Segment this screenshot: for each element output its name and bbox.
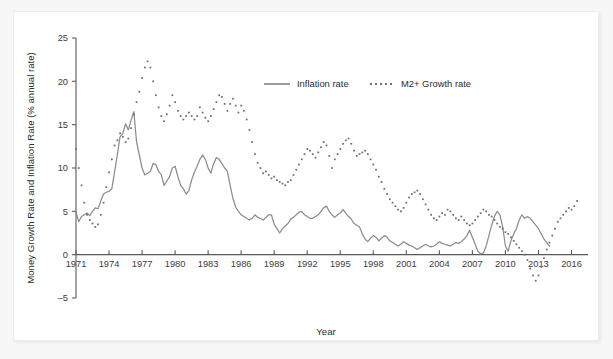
data-point: [122, 136, 124, 138]
data-point: [290, 179, 292, 181]
data-point: [518, 247, 520, 249]
data-point: [364, 150, 366, 152]
data-point: [210, 115, 212, 117]
data-point: [265, 171, 267, 173]
data-point: [238, 112, 240, 114]
data-point: [166, 113, 168, 115]
data-point: [97, 223, 99, 225]
data-point: [116, 139, 118, 141]
data-point: [383, 188, 385, 190]
data-point: [196, 115, 198, 117]
data-point: [447, 209, 449, 211]
data-point: [414, 191, 416, 193]
data-point: [306, 148, 308, 150]
data-point: [427, 209, 429, 211]
data-point: [386, 193, 388, 195]
data-point: [185, 115, 187, 117]
data-point: [422, 198, 424, 200]
data-point: [86, 214, 88, 216]
data-point: [474, 219, 476, 221]
data-point: [301, 158, 303, 160]
data-point: [174, 101, 176, 103]
x-tick-label: 2004: [429, 259, 450, 269]
data-point: [326, 145, 328, 147]
data-point: [370, 158, 372, 160]
data-point: [171, 94, 173, 96]
data-point: [92, 223, 94, 225]
data-point: [334, 158, 336, 160]
x-tick-label: 2007: [462, 259, 483, 269]
data-point: [540, 266, 542, 268]
data-point: [183, 119, 185, 121]
data-point: [105, 186, 107, 188]
data-point: [546, 249, 548, 251]
data-point: [339, 148, 341, 150]
data-point: [257, 162, 259, 164]
data-point: [262, 172, 264, 174]
y-tick-label: 5: [63, 207, 68, 217]
data-point: [331, 167, 333, 169]
x-tick-label: 1989: [264, 259, 285, 269]
data-point: [213, 108, 215, 110]
data-point: [461, 216, 463, 218]
data-point: [83, 202, 85, 204]
data-point: [494, 219, 496, 221]
data-point: [188, 112, 190, 114]
data-point: [455, 217, 457, 219]
data-point: [138, 91, 140, 93]
x-tick-label: 1971: [66, 259, 87, 269]
x-tick-label: 2010: [495, 259, 516, 269]
data-point: [114, 145, 116, 147]
x-tick-label: 1992: [297, 259, 318, 269]
data-point: [400, 210, 402, 212]
data-point: [436, 219, 438, 221]
data-point: [425, 204, 427, 206]
data-point: [287, 181, 289, 183]
x-tick-label: 1998: [363, 259, 384, 269]
data-point: [243, 110, 245, 112]
y-tick-label: 15: [58, 120, 68, 130]
data-point: [144, 67, 146, 69]
data-point: [194, 119, 196, 121]
data-point: [273, 176, 275, 178]
line-chart: –505101520251971197419771980198319861989…: [14, 12, 600, 342]
data-point: [543, 257, 545, 259]
data-point: [251, 141, 253, 143]
data-point: [361, 152, 363, 154]
data-point: [216, 101, 218, 103]
data-point: [155, 94, 157, 96]
data-point: [337, 153, 339, 155]
data-point: [565, 210, 567, 212]
data-point: [232, 98, 234, 100]
data-point: [372, 164, 374, 166]
data-point: [397, 209, 399, 211]
data-point: [317, 152, 319, 154]
data-point: [516, 243, 518, 245]
data-point: [260, 167, 262, 169]
data-point: [345, 139, 347, 141]
legend-dot: [380, 83, 382, 85]
data-point: [450, 210, 452, 212]
data-point: [279, 181, 281, 183]
y-tick-label: 25: [58, 33, 68, 43]
data-point: [312, 153, 314, 155]
data-point: [433, 217, 435, 219]
data-point: [298, 164, 300, 166]
y-tick-label: 10: [58, 163, 68, 173]
data-point: [160, 115, 162, 117]
data-point: [499, 226, 501, 228]
data-point: [524, 254, 526, 256]
data-point: [507, 233, 509, 235]
data-point: [268, 174, 270, 176]
data-point: [452, 214, 454, 216]
data-point: [430, 214, 432, 216]
data-point: [152, 80, 154, 82]
x-tick-label: 1995: [330, 259, 351, 269]
data-point: [576, 200, 578, 202]
data-point: [249, 129, 251, 131]
data-point: [284, 184, 286, 186]
data-point: [529, 268, 531, 270]
data-point: [463, 219, 465, 221]
data-point: [205, 117, 207, 119]
legend-dot: [370, 83, 372, 85]
